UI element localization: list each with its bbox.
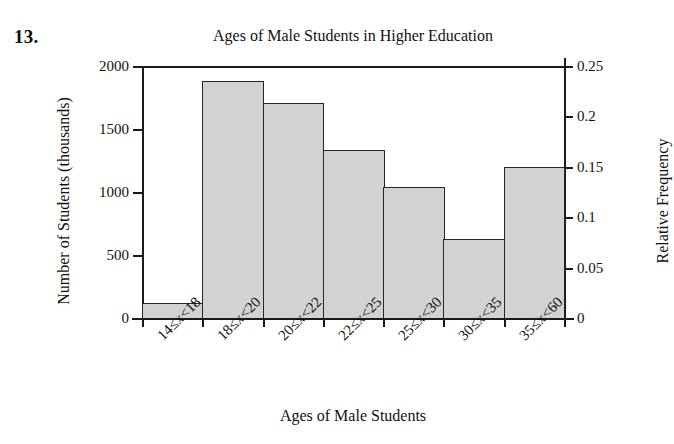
y-axis-left-tick-mark [133, 318, 142, 320]
y-axis-right-tick-mark [564, 116, 573, 118]
y-axis-right-title: Relative Frequency [654, 75, 672, 327]
chart-title: Ages of Male Students in Higher Educatio… [142, 27, 564, 45]
plot-area: 0500100015002000 00.050.10.150.20.25 [142, 66, 564, 318]
bar [202, 81, 264, 318]
y-axis-right-tick-mark [564, 217, 573, 219]
x-axis-tick-labels: 14≤x<1818≤x<2020≤x<2222≤x<2525≤x<3030≤x<… [142, 318, 564, 398]
bar [323, 150, 385, 318]
y-axis-right-tick-mark [564, 66, 573, 68]
chart-figure: 13. Ages of Male Students in Higher Educ… [0, 0, 674, 444]
x-axis-title: Ages of Male Students [142, 407, 564, 425]
problem-number: 13. [14, 26, 39, 48]
y-axis-left-tick-mark [133, 255, 142, 257]
bar [263, 103, 325, 318]
bar-series [142, 66, 564, 318]
x-axis-tick-mark [564, 318, 566, 327]
y-axis-left-tick-mark [133, 192, 142, 194]
y-axis-left-tick-mark [133, 66, 142, 68]
y-axis-left-tick-mark [133, 129, 142, 131]
y-axis-left-title: Number of Students (thousands) [55, 75, 73, 327]
y-axis-right-tick-mark [564, 268, 573, 270]
y-axis-right-tick-mark [564, 167, 573, 169]
